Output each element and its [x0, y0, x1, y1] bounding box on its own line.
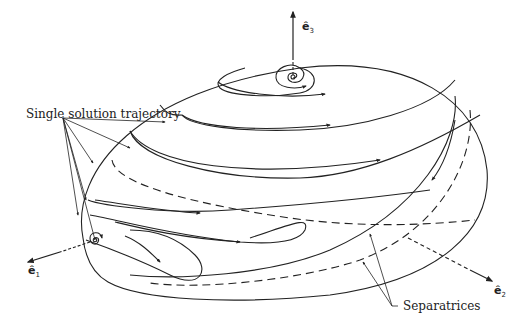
trajectory-leaders	[63, 118, 165, 240]
e2-axis	[470, 270, 492, 281]
e1-axis	[28, 252, 60, 262]
diagram-canvas: Single solution trajectory Separatrices …	[0, 0, 531, 325]
separatrices-label: Separatrices	[403, 299, 480, 313]
separatrices-leaders	[363, 234, 398, 306]
e2-axis-label: ê2	[494, 284, 506, 299]
ellipsoid-diagram	[0, 0, 531, 325]
e3-axis-label: ê3	[302, 20, 314, 35]
trajectory-label: Single solution trajectory	[26, 107, 180, 121]
e1-axis-label: ê1	[28, 264, 40, 279]
